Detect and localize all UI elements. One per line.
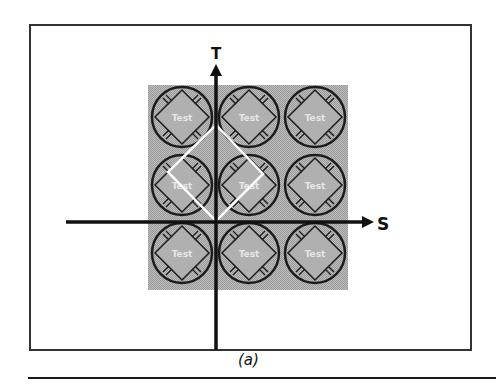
cell-label: Test	[172, 249, 193, 259]
cell-label: Test	[172, 113, 193, 123]
cell-label: Test	[305, 249, 326, 259]
figure-caption: (a)	[238, 351, 259, 369]
cell-label: Test	[239, 249, 260, 259]
cell-label: Test	[305, 181, 326, 191]
diagram-canvas: Test Test Test Test Test Test Test Test …	[0, 0, 496, 385]
t-axis-label: T	[211, 45, 222, 63]
diagram-figure: Test Test Test Test Test Test Test Test …	[0, 0, 496, 385]
s-axis-label: S	[377, 214, 389, 234]
cell-label: Test	[239, 113, 260, 123]
cell-label: Test	[305, 113, 326, 123]
bottom-rule	[28, 377, 496, 379]
